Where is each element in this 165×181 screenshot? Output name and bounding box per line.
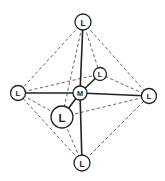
edge-left-back (18, 74, 100, 93)
ligand-back: L (94, 68, 107, 81)
atom-label: L (58, 112, 65, 124)
octahedral-complex-diagram: LLLMLLL (0, 0, 165, 181)
atom-label: L (79, 159, 84, 169)
atom-label: L (147, 92, 152, 101)
metal-center: M (73, 86, 87, 100)
atom-label: L (16, 89, 21, 98)
ligand-front: L (51, 106, 73, 128)
ligand-bottom: L (74, 155, 90, 171)
atom-label: M (77, 89, 83, 98)
ligand-top: L (75, 14, 91, 30)
ligand-left: L (11, 86, 26, 101)
edge-bottom-right (82, 96, 149, 163)
ligand-right: L (142, 89, 157, 104)
edge-top-left (18, 22, 83, 93)
bond-metal-right (80, 93, 149, 96)
atom-label: L (98, 71, 103, 78)
atom-label: L (80, 18, 85, 28)
edge-top-right (83, 22, 149, 96)
bond-metal-bottom (80, 93, 82, 163)
bond-metal-top (80, 22, 83, 93)
